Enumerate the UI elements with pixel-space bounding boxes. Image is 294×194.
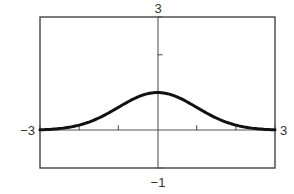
- graph-window: 3 −1 −3 3: [0, 0, 294, 194]
- ymax-label: 3: [154, 1, 161, 16]
- ymin-label: −1: [151, 175, 166, 190]
- xmin-label: −3: [20, 123, 35, 138]
- xmax-label: 3: [280, 123, 287, 138]
